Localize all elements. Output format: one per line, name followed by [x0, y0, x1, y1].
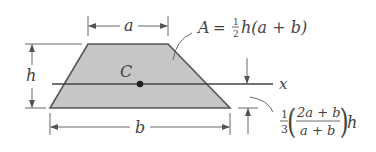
- svg-text:=: =: [213, 19, 226, 37]
- dimension-b: b: [50, 113, 230, 137]
- svg-text:2a + b: 2a + b: [296, 105, 341, 120]
- trapezoid-centroid-diagram: x C a b h A = 1 2 h: [0, 0, 376, 152]
- svg-text:a + b: a + b: [300, 123, 335, 138]
- area-formula: A = 1 2 h(a + b): [196, 17, 307, 39]
- svg-text:(: (: [287, 102, 296, 141]
- trapezoid-shape: [50, 44, 230, 108]
- centroid-leader-line: [250, 97, 273, 112]
- svg-text:h(a + b): h(a + b): [241, 18, 307, 37]
- dimension-a-label: a: [124, 16, 134, 35]
- svg-text:2: 2: [233, 29, 239, 39]
- x-axis-label: x: [279, 75, 288, 93]
- centroid-label: C: [120, 62, 132, 81]
- dimension-centroid-height: [238, 58, 258, 134]
- centroid-point: [137, 81, 144, 88]
- dimension-h-label: h: [26, 66, 36, 85]
- svg-text:1: 1: [233, 17, 239, 27]
- svg-text:A: A: [196, 18, 210, 37]
- svg-text:h: h: [347, 113, 357, 132]
- centroid-height-formula: 1 3 ( 2a + b a + b ) h: [280, 102, 357, 141]
- dimension-b-label: b: [135, 118, 145, 137]
- dimension-a: a: [88, 16, 168, 36]
